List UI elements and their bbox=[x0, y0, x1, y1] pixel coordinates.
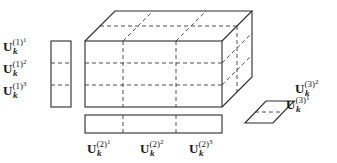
label-subscript: k bbox=[296, 105, 301, 114]
label-index: 2 bbox=[160, 138, 164, 146]
label-base: U bbox=[286, 97, 295, 112]
label-base: U bbox=[3, 39, 12, 54]
mode1-matrix-outline bbox=[51, 41, 71, 107]
mode1-label-1: U(1)1 k bbox=[3, 38, 26, 54]
mode1-label-2: U(1)2 k bbox=[3, 60, 26, 76]
label-index: 2 bbox=[23, 58, 27, 66]
label-base: U bbox=[140, 141, 149, 156]
mode2-label-3: U(2)3 k bbox=[189, 140, 212, 156]
mode2-label-1: U(2)1 k bbox=[87, 140, 110, 156]
label-base: U bbox=[3, 61, 12, 76]
mode3-label-1: U(3)1 k bbox=[286, 96, 309, 112]
label-index: 1 bbox=[306, 94, 310, 102]
label-subscript: k bbox=[150, 149, 155, 158]
label-subscript: k bbox=[13, 69, 18, 78]
top-diagonal-partition bbox=[123, 11, 153, 41]
label-index: 2 bbox=[315, 78, 319, 86]
label-subscript: k bbox=[13, 91, 18, 100]
label-index: 3 bbox=[23, 80, 27, 88]
mode2-matrix-outline bbox=[85, 115, 222, 133]
mode1-factor-matrix bbox=[51, 41, 71, 107]
tensor-cube bbox=[85, 11, 252, 107]
label-base: U bbox=[87, 141, 96, 156]
cube-front-face bbox=[85, 41, 222, 107]
label-index: 3 bbox=[209, 138, 213, 146]
label-index: 1 bbox=[107, 138, 111, 146]
mode2-factor-matrix bbox=[85, 115, 222, 133]
mode1-label-3: U(1)3 k bbox=[3, 82, 26, 98]
mode2-label-2: U(2)2 k bbox=[140, 140, 163, 156]
label-subscript: k bbox=[97, 149, 102, 158]
label-subscript: k bbox=[13, 47, 18, 56]
label-index: 1 bbox=[23, 36, 27, 44]
label-subscript: k bbox=[199, 149, 204, 158]
label-base: U bbox=[3, 83, 12, 98]
label-base: U bbox=[189, 141, 198, 156]
right-diagonal-partition bbox=[222, 55, 252, 85]
label-base: U bbox=[295, 81, 304, 96]
tensor-diagram bbox=[0, 0, 337, 163]
right-diagonal-partition bbox=[222, 33, 252, 63]
